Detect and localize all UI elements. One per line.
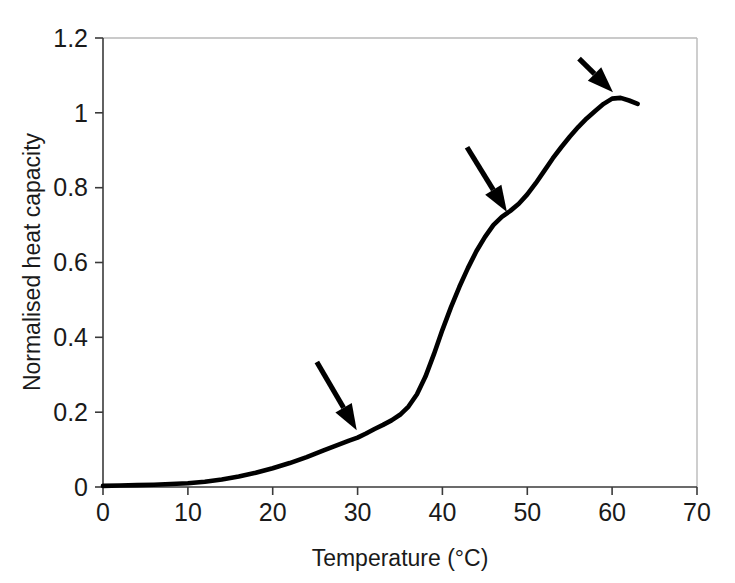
arrow-transition-1	[317, 362, 357, 430]
x-tick-label: 0	[96, 498, 110, 526]
x-tick-label: 60	[598, 498, 626, 526]
x-tick-label: 70	[683, 498, 711, 526]
y-tick-label: 0.6	[53, 248, 88, 276]
y-tick-label: 0.2	[53, 398, 88, 426]
x-axis-title: Temperature (°C)	[312, 545, 489, 571]
x-axis-ticks	[103, 487, 697, 495]
chart-canvas: 0 0.2 0.4 0.6 0.8 1 1.2 0 10 20 30 40 50…	[0, 0, 735, 583]
chart-figure: 0 0.2 0.4 0.6 0.8 1 1.2 0 10 20 30 40 50…	[0, 0, 735, 583]
y-tick-label: 0	[74, 473, 88, 501]
x-tick-label: 40	[428, 498, 456, 526]
x-tick-label: 20	[259, 498, 287, 526]
y-axis-tick-labels: 0 0.2 0.4 0.6 0.8 1 1.2	[53, 24, 88, 501]
arrow-head-icon	[485, 185, 507, 212]
arrow-transition-3	[579, 59, 613, 93]
arrow-transition-2	[467, 147, 507, 212]
y-axis-ticks	[95, 38, 103, 487]
arrow-head-icon	[335, 403, 356, 430]
plot-frame	[103, 38, 697, 487]
y-tick-label: 0.8	[53, 173, 88, 201]
arrow-shaft	[579, 59, 594, 74]
y-tick-label: 0.4	[53, 323, 88, 351]
y-axis-title: Normalised heat capacity	[19, 132, 45, 391]
arrow-shaft	[467, 147, 493, 190]
x-tick-label: 10	[174, 498, 202, 526]
y-tick-label: 1	[74, 99, 88, 127]
data-curve-normalised-heat-capacity	[103, 98, 638, 486]
annotation-arrows	[317, 59, 613, 431]
y-tick-label: 1.2	[53, 24, 88, 52]
x-axis-tick-labels: 0 10 20 30 40 50 60 70	[96, 498, 711, 526]
x-tick-label: 30	[344, 498, 372, 526]
axis-lines	[103, 38, 697, 487]
arrow-shaft	[317, 362, 344, 408]
x-tick-label: 50	[513, 498, 541, 526]
